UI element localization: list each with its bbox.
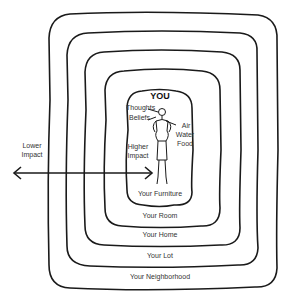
concentric-impact-diagram: YOU Thoughts Beliefs Air Water Food High… bbox=[0, 0, 290, 300]
you-label: YOU bbox=[150, 92, 170, 100]
higher-impact-label-1: Higher bbox=[128, 143, 149, 151]
impact-arrow bbox=[14, 167, 152, 179]
ring-label-room: Your Room bbox=[143, 212, 178, 220]
higher-impact-label-2: Impact bbox=[127, 152, 148, 160]
air-label: Air bbox=[182, 122, 191, 130]
thoughts-label: Thoughts bbox=[126, 104, 155, 112]
food-label: Food bbox=[177, 140, 193, 148]
ring-label-neighborhood: Your Neighborhood bbox=[130, 273, 190, 281]
ring-neighborhood bbox=[48, 12, 278, 290]
lower-impact-label-1: Lower bbox=[22, 142, 41, 150]
beliefs-label: Beliefs bbox=[129, 114, 150, 122]
ring-label-lot: Your Lot bbox=[147, 252, 173, 260]
ring-label-furniture: Your Furniture bbox=[138, 190, 182, 198]
water-label: Water bbox=[176, 131, 194, 139]
lower-impact-label-2: Impact bbox=[21, 151, 42, 159]
ring-label-home: Your Home bbox=[143, 231, 178, 239]
